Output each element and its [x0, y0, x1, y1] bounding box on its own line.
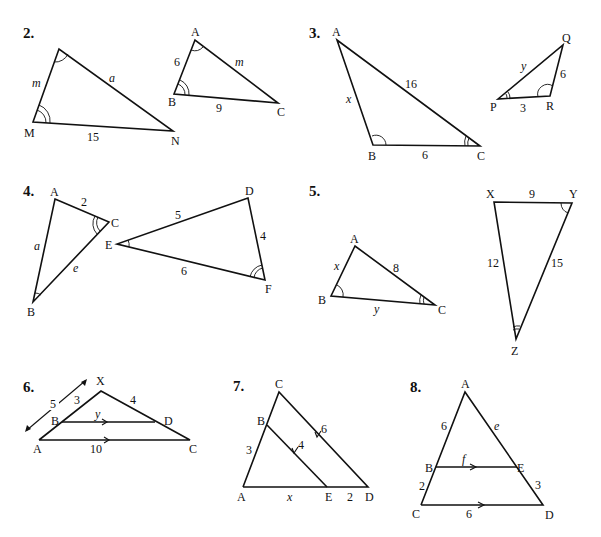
vertex-label: E: [105, 238, 112, 252]
triangle-ABC: A x 16 B 6 C: [332, 25, 485, 163]
side-label: y: [94, 407, 101, 421]
vertex-label: M: [24, 126, 35, 140]
side-label: 5: [175, 208, 181, 222]
side-label: 12: [487, 256, 499, 270]
angle-mark-single: [372, 135, 386, 145]
vertex-label: B: [425, 461, 433, 475]
vertex-label: B: [368, 149, 376, 163]
vertex-label: B: [257, 414, 265, 428]
vertex-label: A: [50, 185, 59, 199]
problem-4: 4. A 2 C a e B D 5 4 E 6 F: [23, 183, 272, 319]
triangle-outline: [174, 40, 278, 103]
vertex-label: B: [51, 414, 59, 428]
problem-7: 7. C B 6 4 3 A x E 2 D: [233, 377, 374, 504]
side-label: x: [286, 490, 293, 504]
triangle-XAC: 5 X 3 4 B y D A 10 C: [25, 374, 197, 456]
side-label: 8: [393, 261, 399, 275]
angle-mark-double-outer: [423, 297, 424, 304]
angle-mark-double-inner: [250, 265, 262, 277]
vertex-label: D: [365, 490, 374, 504]
triangle-ABC: A x 8 B y C: [318, 232, 446, 317]
angle-mark-double-inner: [420, 295, 421, 304]
problem-number: 8.: [410, 379, 422, 395]
triangle-outline: [33, 49, 173, 131]
triangle-outline: [421, 392, 543, 505]
problem-number: 2.: [23, 25, 35, 41]
arrowhead-icon: [81, 379, 87, 386]
triangle-outline: [33, 199, 109, 302]
side-label: y: [520, 59, 527, 73]
angle-mark-single: [35, 293, 41, 295]
vertex-label: B: [27, 305, 35, 319]
triangle-ABC: A 2 C a e B: [27, 185, 119, 319]
triangle-ABC: A 6 m B 9 C: [168, 25, 285, 119]
problem-6: 6. 5 X 3 4 B y D A 10 C: [23, 374, 197, 456]
triangle-outline: [117, 198, 265, 280]
vertex-label: Q: [562, 31, 571, 45]
triangle-XYZ: X 9 Y 12 15 Z: [486, 187, 578, 358]
side-label: 3: [74, 393, 80, 407]
problem-number: 4.: [23, 183, 35, 199]
side-label: 6: [321, 422, 327, 436]
vertex-label: A: [33, 442, 42, 456]
problem-number: 3.: [309, 25, 321, 41]
side-label: x: [333, 259, 340, 273]
angle-mark-single: [561, 203, 568, 213]
problem-2: 2. m a M 15 N A 6 m B 9 C: [23, 25, 285, 148]
vertex-label: N: [171, 134, 180, 148]
side-label: m: [235, 55, 244, 69]
vertex-label: C: [277, 105, 285, 119]
vertex-label: X: [486, 187, 495, 201]
vertex-label: A: [237, 490, 246, 504]
side-label: 6: [466, 507, 472, 521]
side-label: a: [109, 71, 115, 85]
side-label: 6: [441, 419, 447, 433]
triangle-ACD: C B 6 4 3 A x E 2 D: [237, 377, 374, 504]
side-label: f: [462, 452, 467, 466]
side-label: 3: [535, 478, 541, 492]
angle-mark-double-inner: [506, 94, 507, 98]
vertex-label: A: [350, 232, 359, 246]
angle-mark-double-outer: [465, 136, 466, 146]
angle-mark-double-inner: [468, 138, 469, 146]
side-label: 6: [560, 67, 566, 81]
side-label: 6: [422, 148, 428, 162]
vertex-label: X: [96, 374, 105, 388]
vertex-label: C: [189, 442, 197, 456]
side-label: 3: [520, 101, 526, 115]
vertex-label: E: [517, 461, 524, 475]
vertex-label: D: [164, 414, 173, 428]
side-label: e: [73, 261, 79, 275]
problem-number: 7.: [233, 378, 245, 394]
side-label: 6: [181, 264, 187, 278]
side-label: 4: [298, 438, 304, 452]
side-label: 5: [50, 397, 56, 411]
side-label: 2: [81, 195, 87, 209]
side-label: 2: [419, 479, 425, 493]
side-label: 16: [405, 77, 417, 91]
vertex-label: A: [461, 377, 470, 391]
side-label: a: [34, 239, 40, 253]
vertex-label: E: [325, 490, 332, 504]
arrowhead-icon: [25, 425, 31, 432]
vertex-label: B: [168, 95, 176, 109]
problem-8: 8. A 6 e B f E 2 3 C 6 D: [410, 377, 554, 522]
vertex-label: R: [546, 99, 554, 113]
angle-mark-double-outer: [254, 268, 263, 278]
triangle-MN: m a M 15 N: [24, 49, 180, 148]
vertex-label: D: [245, 184, 254, 198]
side-label: 2: [347, 490, 353, 504]
vertex-label: Y: [569, 187, 578, 201]
side-label: 3: [246, 443, 252, 457]
side-label: 9: [216, 101, 222, 115]
vertex-label: C: [438, 303, 446, 317]
problem-number: 6.: [23, 379, 35, 395]
side-label: e: [494, 419, 500, 433]
side-label: 4: [260, 229, 266, 243]
vertex-label: Z: [511, 344, 518, 358]
triangle-PQR: Q y 6 P 3 R: [490, 31, 571, 115]
vertex-label: B: [318, 293, 326, 307]
vertex-label: D: [545, 508, 554, 522]
similar-triangles-worksheet: 2. m a M 15 N A 6 m B 9 C 3.: [0, 0, 601, 537]
triangle-outline: [498, 45, 563, 99]
